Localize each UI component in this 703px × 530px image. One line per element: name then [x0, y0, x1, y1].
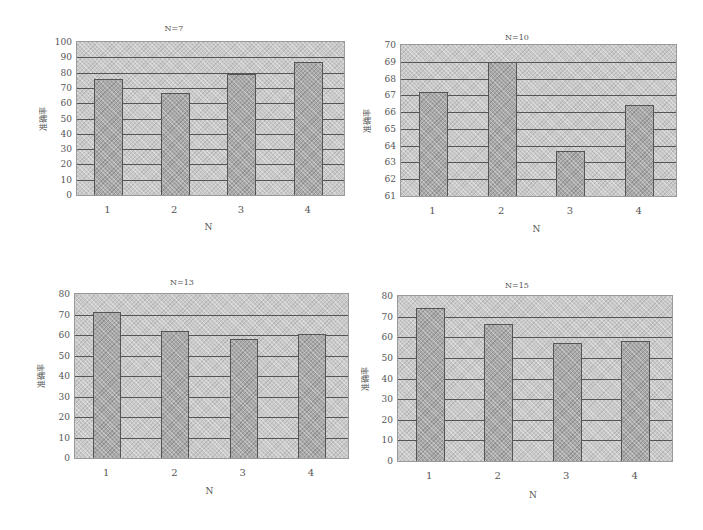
- y-tick-label: 10: [48, 433, 70, 443]
- y-tick-label: 70: [50, 83, 72, 93]
- y-tick-label: 70: [48, 310, 70, 320]
- y-tick-label: 66: [374, 107, 396, 117]
- gridline: [77, 57, 344, 58]
- bar-1: [93, 312, 121, 458]
- bar-4: [294, 62, 323, 195]
- y-tick-label: 30: [50, 144, 72, 154]
- y-tick-label: 40: [50, 129, 72, 139]
- y-tick-label: 20: [371, 415, 393, 425]
- chart-title: N=10: [505, 33, 529, 42]
- y-tick-label: 80: [371, 291, 393, 301]
- y-tick-label: 65: [374, 124, 396, 134]
- y-tick-label: 90: [50, 52, 72, 62]
- plot-area: [400, 44, 677, 197]
- bar-2: [488, 62, 517, 196]
- chart-title: N=13: [170, 278, 194, 287]
- bar-4: [625, 105, 654, 196]
- y-axis-label: 准确率: [35, 364, 46, 388]
- x-tick-label: 3: [238, 204, 244, 215]
- y-tick-label: 69: [374, 57, 396, 67]
- x-tick-label: 1: [104, 204, 110, 215]
- bar-3: [230, 339, 258, 458]
- x-axis-label: N: [529, 490, 537, 500]
- bar-1: [419, 92, 448, 196]
- bar-3: [553, 343, 582, 461]
- x-tick-label: 4: [635, 205, 641, 216]
- x-tick-label: 2: [171, 204, 177, 215]
- y-axis-label: 准确率: [37, 106, 48, 130]
- bar-3: [227, 74, 256, 195]
- y-tick-label: 50: [371, 353, 393, 363]
- y-tick-label: 61: [374, 191, 396, 201]
- bar-3: [556, 151, 585, 196]
- y-axis-label: 准确率: [359, 366, 370, 390]
- gridline: [401, 62, 676, 63]
- x-tick-label: 4: [308, 467, 314, 478]
- y-tick-label: 67: [374, 90, 396, 100]
- x-axis-label: N: [206, 486, 214, 496]
- y-tick-label: 68: [374, 74, 396, 84]
- y-tick-label: 10: [371, 435, 393, 445]
- y-tick-label: 80: [48, 289, 70, 299]
- x-tick-label: 3: [567, 205, 573, 216]
- chart-title: N=15: [505, 281, 529, 290]
- y-tick-label: 10: [50, 175, 72, 185]
- x-axis-label: N: [205, 222, 213, 232]
- y-axis-label: 准确率: [361, 108, 372, 132]
- y-tick-label: 70: [371, 312, 393, 322]
- x-axis-label: N: [533, 224, 541, 234]
- bar-4: [621, 341, 650, 461]
- y-tick-label: 30: [371, 394, 393, 404]
- x-tick-label: 1: [426, 470, 432, 481]
- y-tick-label: 0: [50, 190, 72, 200]
- plot-area: [74, 293, 349, 459]
- x-tick-label: 4: [304, 204, 310, 215]
- x-tick-label: 1: [103, 467, 109, 478]
- y-tick-label: 63: [374, 157, 396, 167]
- plot-area: [76, 41, 345, 196]
- bar-1: [94, 79, 123, 195]
- y-tick-label: 62: [374, 174, 396, 184]
- bar-2: [484, 324, 513, 461]
- x-tick-label: 3: [239, 467, 245, 478]
- bar-4: [298, 334, 326, 458]
- x-tick-label: 3: [563, 470, 569, 481]
- x-tick-label: 2: [495, 470, 501, 481]
- x-tick-label: 2: [498, 205, 504, 216]
- x-tick-label: 1: [429, 205, 435, 216]
- y-tick-label: 60: [50, 98, 72, 108]
- x-tick-label: 4: [632, 470, 638, 481]
- plot-area: [397, 295, 673, 462]
- y-tick-label: 80: [50, 68, 72, 78]
- y-tick-label: 60: [371, 332, 393, 342]
- y-tick-label: 0: [371, 456, 393, 466]
- y-tick-label: 100: [50, 37, 72, 47]
- y-tick-label: 40: [48, 371, 70, 381]
- y-tick-label: 60: [48, 330, 70, 340]
- y-tick-label: 30: [48, 392, 70, 402]
- y-tick-label: 50: [50, 114, 72, 124]
- x-tick-label: 2: [171, 467, 177, 478]
- y-tick-label: 50: [48, 351, 70, 361]
- y-tick-label: 70: [374, 40, 396, 50]
- y-tick-label: 20: [48, 412, 70, 422]
- y-tick-label: 40: [371, 374, 393, 384]
- y-tick-label: 64: [374, 141, 396, 151]
- gridline: [401, 79, 676, 80]
- y-tick-label: 0: [48, 453, 70, 463]
- bar-2: [161, 93, 190, 196]
- chart-title: N=7: [165, 24, 184, 33]
- bar-1: [416, 308, 445, 461]
- bar-2: [161, 331, 189, 458]
- y-tick-label: 20: [50, 159, 72, 169]
